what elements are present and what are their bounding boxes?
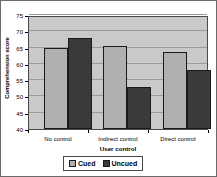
bar-cued [103,46,127,129]
bar-group [148,17,207,129]
plot-area [28,16,208,130]
bar-cued [44,48,68,129]
y-axis-tick-label: 65 [7,46,23,52]
legend-item: Uncued [103,160,138,168]
y-axis-tick-label: 40 [7,127,23,133]
chart-legend: CuedUncued [63,156,143,171]
x-axis-tick-mark [88,130,89,133]
y-axis-tick-label: 70 [7,29,23,35]
cued-swatch [69,160,76,167]
y-axis-tick-label: 50 [7,94,23,100]
x-axis-tick-mark [148,130,149,133]
bar-group [88,17,147,129]
x-axis-category-label: Indirect control [88,134,148,144]
legend-item: Cued [69,160,96,168]
x-axis-title: User control [28,144,208,153]
bar-group [29,17,88,129]
y-axis-tick-label: 45 [7,111,23,117]
x-axis-tick-labels: No controlIndirect controlDirect control [28,134,208,144]
uncued-swatch [103,160,110,167]
legend-label: Uncued [112,160,138,168]
x-axis-category-label: No control [28,134,88,144]
gridline [29,14,207,15]
bar-uncued [187,70,211,129]
x-axis-tick-mark [208,130,209,133]
bar-chart-figure: Comprehension score 4045505560657075 No … [0,0,217,177]
legend-label: Cued [78,160,96,168]
y-axis-tick-label: 75 [7,13,23,19]
bar-groups [29,17,207,129]
x-axis-tick-mark [28,130,29,133]
x-axis-category-label: Direct control [148,134,208,144]
y-axis-tick-label: 60 [7,62,23,68]
bar-cued [163,52,187,129]
y-axis-tick-label: 55 [7,78,23,84]
